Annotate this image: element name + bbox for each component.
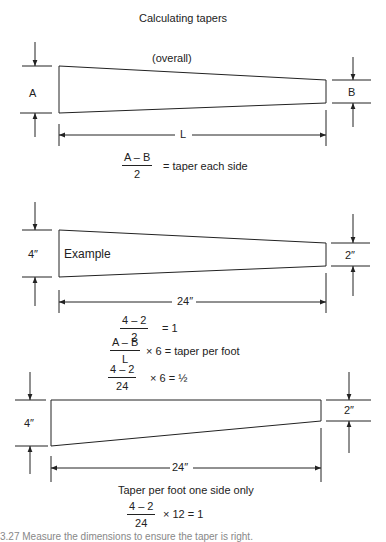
dimension-l-label: L bbox=[180, 129, 186, 140]
formula-taper-each-side-fraction: A – B 2 bbox=[122, 152, 152, 180]
formula-taper-per-foot-result: × 6 = taper per foot bbox=[146, 346, 240, 357]
formula-per-foot-example-fraction: 4 – 2 24 bbox=[108, 364, 136, 392]
numerator: A – B bbox=[122, 152, 152, 166]
dimension-a-label: A bbox=[29, 88, 36, 99]
one-side-heading: Taper per foot one side only bbox=[118, 485, 254, 496]
tapered-board-one-side bbox=[51, 400, 321, 446]
denominator: 2 bbox=[134, 166, 140, 180]
numerator: 4 – 2 bbox=[127, 501, 155, 515]
formula-one-side-result: × 12 = 1 bbox=[163, 509, 203, 520]
taper-diagram-drawing bbox=[0, 0, 386, 542]
denominator: 24 bbox=[135, 515, 147, 529]
numerator: 4 – 2 bbox=[120, 315, 148, 329]
denominator: 24 bbox=[116, 378, 128, 392]
diagram-title: Calculating tapers bbox=[139, 13, 227, 24]
formula-taper-per-foot-fraction: A – B L bbox=[110, 337, 140, 365]
dimension-2in-label: 2″ bbox=[344, 405, 354, 416]
dimension-24in-label: 24″ bbox=[177, 296, 193, 307]
formula-one-side-fraction: 4 – 2 24 bbox=[127, 501, 155, 529]
formula-per-foot-example-result: × 6 = ½ bbox=[150, 373, 187, 384]
example-label: Example bbox=[64, 248, 111, 260]
tapered-board-overall bbox=[59, 66, 326, 113]
formula-example-result: = 1 bbox=[162, 323, 178, 334]
formula-taper-each-side-result: = taper each side bbox=[163, 161, 248, 172]
dimension-b-label: B bbox=[348, 87, 355, 98]
overall-label: (overall) bbox=[152, 53, 192, 64]
figure-caption: 3.27 Measure the dimensions to ensure th… bbox=[0, 531, 253, 542]
numerator: 4 – 2 bbox=[108, 364, 136, 378]
numerator: A – B bbox=[110, 337, 140, 351]
dimension-2in-label: 2″ bbox=[345, 250, 355, 261]
dimension-4in-label: 4″ bbox=[24, 418, 34, 429]
dimension-4in-label: 4″ bbox=[28, 249, 38, 260]
dimension-24in-label: 24″ bbox=[172, 462, 188, 473]
